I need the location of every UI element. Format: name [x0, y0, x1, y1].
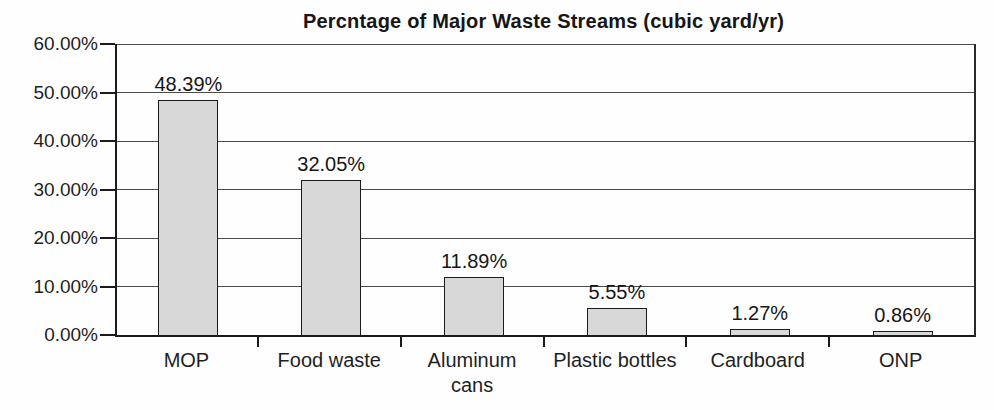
x-axis-tick-3: [543, 337, 545, 347]
x-tick-label-plastic-bottles: Plastic bottles: [552, 348, 678, 373]
bar-aluminum-cans: [444, 277, 504, 335]
bar-mop: [158, 100, 218, 335]
bar-value-label-mop: 48.39%: [118, 73, 258, 96]
y-axis-tick-50pct: [100, 92, 115, 94]
x-axis-tick-2: [400, 337, 402, 347]
y-axis-tick-0pct: [100, 334, 115, 336]
bar-cardboard: [730, 329, 790, 335]
bar-value-label-onp: 0.86%: [833, 304, 973, 327]
plot-area: 48.39%32.05%11.89%5.55%1.27%0.86%: [115, 44, 976, 337]
bar-plastic-bottles: [587, 308, 647, 335]
bar-value-label-aluminum-cans: 11.89%: [404, 250, 544, 273]
bar-value-label-plastic-bottles: 5.55%: [547, 281, 687, 304]
chart-title: Percntage of Major Waste Streams (cubic …: [115, 10, 972, 33]
x-tick-label-aluminum-cans: Aluminum cans: [409, 348, 535, 398]
bar-group-aluminum-cans: 11.89%: [403, 44, 546, 335]
bar-group-onp: 0.86%: [831, 44, 974, 335]
x-axis-tick-1: [257, 337, 259, 347]
bar-group-mop: 48.39%: [117, 44, 260, 335]
y-axis-tick-40pct: [100, 140, 115, 142]
x-axis-tick-4: [685, 337, 687, 347]
bar-value-label-cardboard: 1.27%: [690, 302, 830, 325]
x-tick-label-mop: MOP: [123, 348, 249, 373]
bar-group-plastic-bottles: 5.55%: [546, 44, 689, 335]
y-tick-label-60pct: 60.00%: [6, 33, 98, 55]
bar-group-food-waste: 32.05%: [260, 44, 403, 335]
bar-value-label-food-waste: 32.05%: [261, 153, 401, 176]
bar-onp: [873, 331, 933, 335]
x-axis-tick-5: [828, 337, 830, 347]
y-axis-tick-20pct: [100, 237, 115, 239]
bar-chart: Percntage of Major Waste Streams (cubic …: [0, 0, 994, 410]
bar-food-waste: [301, 180, 361, 335]
y-tick-label-40pct: 40.00%: [6, 130, 98, 152]
y-tick-label-50pct: 50.00%: [6, 82, 98, 104]
x-tick-label-food-waste: Food waste: [266, 348, 392, 373]
bar-group-cardboard: 1.27%: [688, 44, 831, 335]
y-axis-tick-30pct: [100, 189, 115, 191]
x-tick-label-cardboard: Cardboard: [695, 348, 821, 373]
y-axis-tick-60pct: [100, 43, 115, 45]
y-tick-label-0pct: 0.00%: [6, 324, 98, 346]
x-tick-label-onp: ONP: [838, 348, 964, 373]
y-tick-label-10pct: 10.00%: [6, 276, 98, 298]
y-axis-tick-10pct: [100, 286, 115, 288]
y-tick-label-30pct: 30.00%: [6, 179, 98, 201]
y-tick-label-20pct: 20.00%: [6, 227, 98, 249]
